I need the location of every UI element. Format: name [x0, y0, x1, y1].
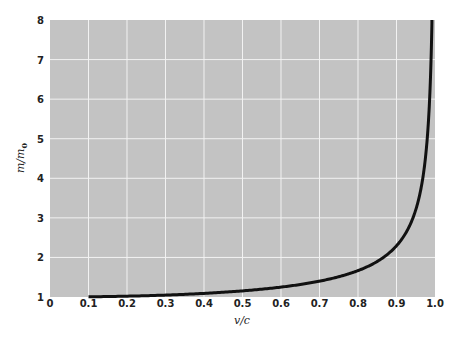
y-tick-label: 6	[37, 94, 44, 105]
y-axis-label: m/m0	[14, 143, 29, 174]
y-tick-label: 7	[37, 55, 44, 66]
chart: 00.10.20.30.40.50.60.70.80.91.0 12345678…	[0, 0, 458, 343]
x-axis-label: v/c	[234, 314, 250, 327]
x-tick-label: 0.2	[118, 298, 136, 309]
x-tick-label: 0	[47, 298, 54, 309]
x-axis-ticks: 00.10.20.30.40.50.60.70.80.91.0	[47, 298, 444, 309]
x-tick-label: 0.3	[157, 298, 175, 309]
x-tick-label: 1.0	[426, 298, 444, 309]
y-tick-label: 1	[37, 292, 44, 303]
y-axis-ticks: 12345678	[37, 15, 44, 303]
y-tick-label: 2	[37, 252, 44, 263]
x-tick-label: 0.7	[311, 298, 329, 309]
y-tick-label: 5	[37, 134, 44, 145]
x-tick-label: 0.1	[80, 298, 98, 309]
x-tick-label: 0.8	[349, 298, 367, 309]
y-tick-label: 8	[37, 15, 44, 26]
x-tick-label: 0.5	[234, 298, 252, 309]
y-tick-label: 4	[37, 173, 44, 184]
x-tick-label: 0.9	[388, 298, 406, 309]
x-tick-label: 0.4	[195, 298, 213, 309]
x-tick-label: 0.6	[272, 298, 290, 309]
y-tick-label: 3	[37, 213, 44, 224]
